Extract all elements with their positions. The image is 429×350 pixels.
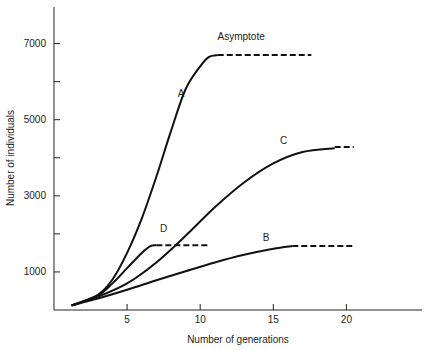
y-tick-label: 5000 — [24, 114, 47, 125]
x-tick-label: 5 — [124, 314, 130, 325]
x-axis-label: Number of generations — [187, 334, 289, 345]
annotations: AsymptoteABCD — [160, 31, 287, 244]
y-tick-label: 3000 — [24, 190, 47, 201]
curves — [72, 55, 356, 305]
y-axis-label: Number of individuals — [5, 110, 16, 206]
y-tick-label: 1000 — [24, 266, 47, 277]
x-tick-label: 10 — [195, 314, 207, 325]
x-ticks: 5101520 — [124, 304, 352, 325]
axes — [54, 7, 422, 310]
population-growth-chart: 1000300050007000 5101520 AsymptoteABCD N… — [0, 0, 429, 350]
annotation-asymptote: Asymptote — [218, 31, 266, 42]
y-ticks: 1000300050007000 — [24, 38, 60, 277]
y-tick-label: 7000 — [24, 38, 47, 49]
annotation-c: C — [280, 135, 287, 146]
annotation-b: B — [263, 232, 270, 243]
annotation-a: A — [178, 88, 185, 99]
x-tick-label: 20 — [341, 314, 353, 325]
x-tick-label: 15 — [268, 314, 280, 325]
annotation-d: D — [160, 223, 167, 234]
curve-b — [72, 246, 293, 305]
curve-d — [72, 245, 157, 305]
